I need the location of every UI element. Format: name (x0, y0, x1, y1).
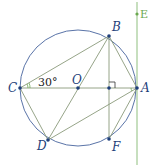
segment-cb (20, 36, 109, 88)
point-d (46, 138, 50, 142)
segment-af (109, 88, 137, 139)
label-d: D (36, 139, 47, 153)
geometry-diagram: A B C D F O E 30° (0, 0, 154, 165)
point-foot (107, 86, 111, 90)
angle-arc-c (27, 84, 28, 88)
label-e: E (140, 8, 148, 21)
point-a (135, 86, 139, 90)
angle-label-30: 30° (38, 76, 58, 89)
segment-ba (109, 36, 137, 88)
label-f: F (111, 140, 121, 154)
label-a: A (140, 81, 150, 95)
angle-arc-c-2 (29, 83, 30, 88)
point-f (107, 137, 111, 141)
point-b (107, 34, 111, 38)
label-c: C (8, 81, 17, 95)
segment-cd (20, 88, 48, 140)
point-c (18, 86, 22, 90)
segment-ad (48, 88, 137, 140)
point-e (135, 12, 138, 15)
label-o: O (72, 73, 82, 87)
label-b: B (111, 20, 121, 34)
